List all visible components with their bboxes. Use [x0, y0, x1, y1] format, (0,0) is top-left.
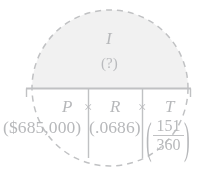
t-denominator: 360 [153, 136, 184, 153]
result-symbol: I [106, 30, 112, 47]
p-symbol: P [62, 98, 72, 115]
times-operator-2: × [138, 100, 147, 115]
p-value: ($685,000) [3, 119, 81, 137]
figure-canvas: I (?) P × R × T ($685,000) (.0686) ( 151… [0, 0, 201, 179]
close-paren-glyph: ) [184, 117, 190, 160]
result-value: (?) [101, 56, 118, 71]
ink-layer: I (?) P × R × T ($685,000) (.0686) ( 151… [0, 0, 201, 179]
t-symbol: T [165, 98, 175, 115]
fraction-open-paren: ( [146, 130, 152, 147]
fraction-close-paren: ) [184, 130, 190, 147]
t-numerator: 151 [153, 118, 184, 134]
t-fraction: 151 360 [153, 118, 184, 154]
r-value: (.0686) [89, 119, 141, 137]
open-paren-glyph: ( [146, 117, 152, 160]
r-symbol: R [110, 98, 120, 115]
times-operator-1: × [84, 100, 93, 115]
